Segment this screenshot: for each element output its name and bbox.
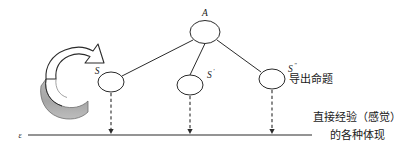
node-s-prime[interactable]: S ': [177, 67, 215, 95]
rotation-arrow-inner-edge: [56, 79, 67, 98]
node-s-prime-circle[interactable]: [177, 75, 203, 95]
rotation-arrow-shadow: [41, 79, 88, 119]
annotation-derived-proposition: 导出命题: [289, 72, 333, 86]
edge-a-to-s-double-prime: [217, 40, 261, 72]
edge-a-to-s-prime: [190, 44, 205, 76]
figure-canvas: A S S ' S " ε 导出命题 直接经验（感觉） 的各种体现: [0, 0, 420, 159]
node-s-label: S: [95, 66, 100, 76]
edge-a-to-s: [122, 40, 193, 76]
node-s-prime-mark: ': [213, 67, 215, 74]
diagram-svg: A S S ' S " ε 导出命题 直接经验（感觉） 的各种体现: [0, 0, 420, 159]
node-s-circle[interactable]: [98, 72, 124, 92]
annotation-direct-experience-line2: 的各种体现: [330, 128, 385, 142]
node-a[interactable]: A: [190, 8, 220, 44]
node-s[interactable]: S: [95, 66, 124, 92]
tree-edges: [122, 40, 261, 76]
node-a-circle[interactable]: [190, 21, 220, 44]
rotation-arrow-icon: [41, 44, 104, 119]
annotation-direct-experience-line1: 直接经验（感觉）: [313, 110, 401, 124]
node-s-double-prime-circle[interactable]: [259, 69, 285, 89]
epsilon-axis-symbol: ε: [18, 131, 22, 140]
projection-arrows: [111, 90, 272, 131]
node-s-double-prime-mark: ": [294, 61, 297, 68]
experience-baseline: ε: [18, 131, 312, 140]
node-s-prime-label: S: [207, 70, 212, 80]
node-a-label: A: [201, 8, 208, 18]
